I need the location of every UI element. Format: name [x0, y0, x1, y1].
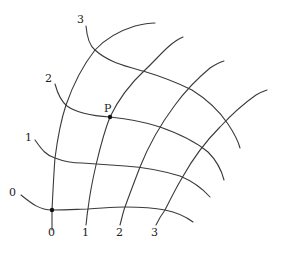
- point-p-label: P: [104, 102, 112, 115]
- origin-point: [50, 208, 54, 212]
- u-curve-3: [156, 90, 267, 225]
- u-label-3: 3: [151, 226, 158, 239]
- v-label-3: 3: [77, 13, 84, 26]
- v-label-0: 0: [9, 186, 16, 199]
- v-label-2: 2: [45, 72, 52, 85]
- v-label-1: 1: [25, 131, 32, 144]
- u-curve-2: [120, 61, 224, 225]
- point-p-marker: [108, 115, 112, 119]
- u-curve-1: [86, 37, 183, 225]
- u-curve-0: [52, 23, 155, 230]
- u-label-0: 0: [48, 226, 55, 239]
- v-curve-2: [55, 84, 224, 180]
- u-label-2: 2: [116, 226, 123, 239]
- u-label-1: 1: [82, 226, 89, 239]
- v-curve-1: [35, 140, 210, 197]
- coordinate-grid-diagram: 0 1 2 3 0 1 2 3 P: [0, 0, 287, 253]
- v-curve-0: [21, 195, 193, 222]
